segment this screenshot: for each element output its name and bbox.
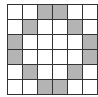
grid-cell-empty <box>23 50 37 64</box>
grid-cell-empty <box>83 80 96 94</box>
grid-cell-shaded <box>83 35 96 49</box>
grid-cell-empty <box>53 35 67 49</box>
grid-cell-shaded <box>53 80 67 94</box>
grid-cell-shaded <box>38 5 52 19</box>
grid-cell-empty <box>53 50 67 64</box>
grid-cell-empty <box>38 35 52 49</box>
grid-cell-empty <box>38 65 52 79</box>
grid-cell-empty <box>53 20 67 34</box>
grid-cell-shaded <box>68 20 82 34</box>
grid-cell-empty <box>8 65 22 79</box>
grid-cell-empty <box>8 80 22 94</box>
grid-cell-empty <box>53 65 67 79</box>
grid-cell-shaded <box>23 65 37 79</box>
grid-cell-empty <box>8 5 22 19</box>
grid-cell-empty <box>23 35 37 49</box>
grid-cell-shaded <box>38 80 52 94</box>
grid-cell-shaded <box>8 50 22 64</box>
grid-cell-empty <box>68 50 82 64</box>
grid-cell-empty <box>68 35 82 49</box>
grid-cell-shaded <box>53 5 67 19</box>
grid-cell-empty <box>38 20 52 34</box>
grid-cell-empty <box>83 5 96 19</box>
grid-cell-empty <box>38 50 52 64</box>
grid-cell-empty <box>23 5 37 19</box>
grid-cell-shaded <box>23 20 37 34</box>
grid-cell-shaded <box>68 65 82 79</box>
grid-cell-empty <box>83 65 96 79</box>
grid-cell-empty <box>23 80 37 94</box>
grid-cell-empty <box>8 20 22 34</box>
grid-cell-shaded <box>8 35 22 49</box>
grid-cell-shaded <box>83 50 96 64</box>
shaded-grid <box>7 4 96 95</box>
grid-cell-empty <box>68 80 82 94</box>
grid-cell-empty <box>68 5 82 19</box>
grid-cell-empty <box>83 20 96 34</box>
